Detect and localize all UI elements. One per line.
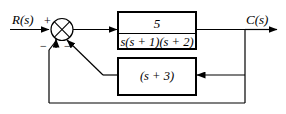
forward-block-transfer-function: 5 s(s + 1)(s + 2): [118, 17, 196, 49]
outer-feedback-elbow: [49, 41, 56, 50]
summing-junction-minus-sign-right: −: [64, 40, 71, 52]
input-signal-label: R(s): [12, 13, 34, 26]
block-diagram: R(s) + − − C(s) 5 s(s + 1)(s + 2) (s + 3…: [0, 0, 286, 114]
feedback-block-transfer-function: (s + 3): [118, 69, 196, 83]
summing-junction-minus-sign-left: −: [40, 40, 47, 52]
output-signal-label: C(s): [246, 13, 268, 26]
forward-block-numerator: 5: [118, 17, 195, 34]
inner-feedback-diagonal: [67, 40, 103, 75]
forward-block-denominator: s(s + 1)(s + 2): [118, 34, 195, 49]
summing-junction-plus-sign: +: [44, 15, 51, 27]
